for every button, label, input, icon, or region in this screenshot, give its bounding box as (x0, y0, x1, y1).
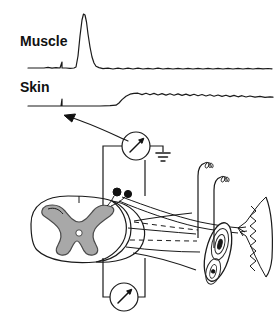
figure-background (0, 0, 276, 327)
muscle-spindle-nucleus (211, 269, 215, 273)
central-canal (76, 230, 82, 236)
muscle-trace-label: Muscle (20, 33, 68, 49)
reflex-arc-figure: Muscle Skin (0, 0, 276, 327)
synaptic-bouton-2 (124, 190, 131, 197)
synaptic-bouton-1 (113, 188, 121, 196)
skin-trace-label: Skin (20, 79, 50, 95)
